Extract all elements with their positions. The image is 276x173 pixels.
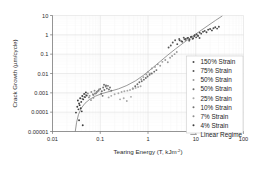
- y-axis-label: Crack Growth (µm/cycle): [11, 39, 18, 107]
- y-tick-label: 10: [42, 13, 48, 19]
- y-tick-label: 1: [45, 32, 48, 38]
- legend-label: 7% Strain: [201, 113, 229, 120]
- y-tick-label: 0.1: [41, 51, 49, 57]
- legend-label: 75% Strain: [201, 67, 233, 74]
- y-tick-label: 0.01: [37, 71, 48, 77]
- legend-dot-marker: [193, 106, 195, 108]
- legend-label: 10% Strain: [201, 104, 233, 111]
- legend-dot-marker: [193, 70, 195, 72]
- legend-label: 50% Strain: [201, 76, 233, 83]
- x-tick-label: 0.1: [96, 136, 104, 142]
- x-axis-label: Tearing Energy (T, kJm-2): [113, 148, 182, 155]
- y-tick-label: 0.0001: [31, 109, 48, 115]
- legend-label: 4% Strain: [201, 122, 229, 129]
- x-tick-label: 0.01: [47, 136, 58, 142]
- legend-label: 50% Strain: [201, 85, 233, 92]
- crack-growth-scatter-plot: 0.010.1110100 0.000010.00010.0010.010.11…: [0, 0, 276, 173]
- y-tick-label: 0.001: [34, 90, 48, 96]
- legend-label: Linear Regime: [201, 131, 243, 139]
- legend-dot-marker: [193, 97, 195, 99]
- legend-dot-marker: [193, 88, 195, 90]
- y-tick-label: 0.00001: [28, 129, 48, 135]
- x-tick-label: 1: [146, 136, 149, 142]
- legend-label: 25% Strain: [201, 95, 233, 102]
- legend-dot-marker: [193, 61, 195, 63]
- chart-figure: 0.010.1110100 0.000010.00010.0010.010.11…: [0, 0, 276, 173]
- legend-dot-marker: [193, 115, 195, 117]
- x-tick-label: 10: [193, 136, 199, 142]
- legend-label: 150% Strain: [201, 58, 236, 65]
- legend-dot-marker: [193, 124, 195, 126]
- chart-legend: 150% Strain75% Strain50% Strain50% Strai…: [187, 56, 244, 139]
- legend-dot-marker: [193, 79, 195, 81]
